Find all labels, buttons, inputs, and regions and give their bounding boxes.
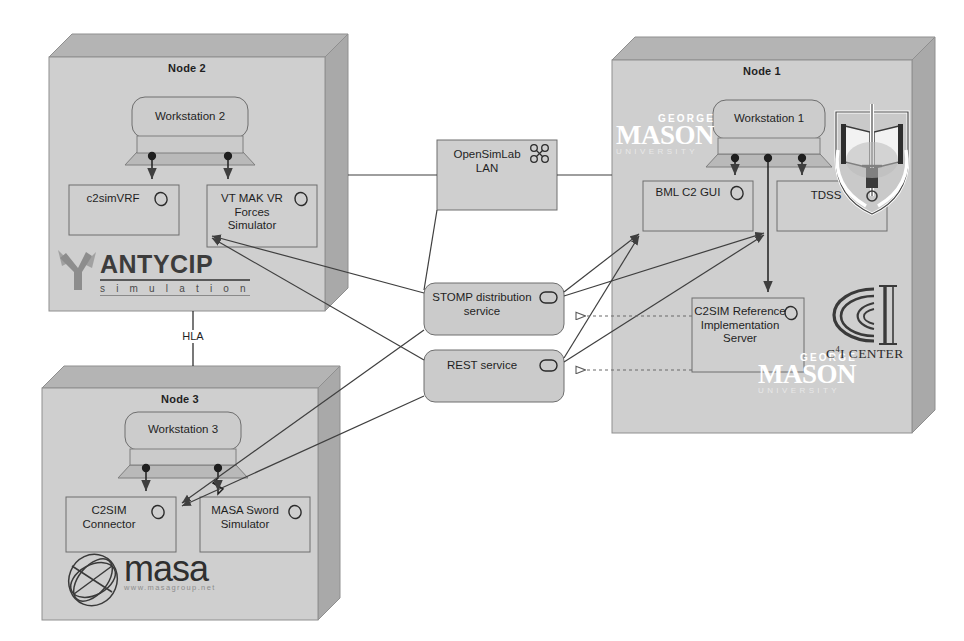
gmu-line2-bottom: MASON xyxy=(758,363,857,386)
service-label-rest: REST service xyxy=(424,359,540,373)
c4i-rest: I CENTER xyxy=(840,346,904,361)
node-title-node1: Node 1 xyxy=(612,65,912,78)
antycip-mark-icon xyxy=(58,250,96,290)
workstation-label-node1: Workstation 1 xyxy=(713,112,825,126)
component-label-bml-c2-gui: BML C2 GUI xyxy=(645,186,731,200)
c4i-center-logo: C4I CENTER xyxy=(826,344,904,362)
masa-wordmark: masa xyxy=(124,552,216,585)
workstation-label-node3: Workstation 3 xyxy=(125,423,241,437)
component-gear-icon-masa-sword xyxy=(287,504,302,520)
node-title-node2: Node 2 xyxy=(49,62,325,75)
component-label-tdss: TDSS xyxy=(790,189,862,203)
connection-lines-layer xyxy=(0,0,964,641)
antycip-wordmark: ANTYCIP xyxy=(100,252,250,281)
c4i-center-arcs-icon xyxy=(834,285,897,345)
architecture-diagram: Node 2 Node 3 Node 1 Workstation 2 Works… xyxy=(0,0,964,641)
lan-label-line2: LAN xyxy=(441,162,533,176)
gmu-logo-top: GEORGE MASON UNIVERSITY xyxy=(616,113,715,156)
link-rest-bml-c2-gui xyxy=(564,236,639,358)
component-gear-icon-bml-c2-gui xyxy=(729,185,744,201)
lan-label-line1: OpenSimLab xyxy=(441,148,533,162)
link-stomp-bml-c2-gui xyxy=(564,234,639,292)
interface-oval-icon-stomp xyxy=(540,292,557,303)
masa-logo: masa www.masagroup.net xyxy=(124,552,216,592)
component-label-c2sim-connector: C2SIM Connector xyxy=(66,504,152,531)
component-gear-icon-vtmak xyxy=(293,191,308,207)
link-label-hla: HLA xyxy=(166,330,220,343)
link-rest-c2sim-connector xyxy=(182,396,424,506)
link-stomp-node1-junction xyxy=(564,233,764,296)
antycip-tagline: s i m u l a t i o n xyxy=(100,283,250,296)
gmu-line2-top: MASON xyxy=(616,124,715,147)
workstation-label-node2: Workstation 2 xyxy=(132,110,248,124)
component-label-vtmak: VT MAK VR Forces Simulator xyxy=(209,192,295,233)
masa-url: www.masagroup.net xyxy=(124,583,216,592)
component-label-c2sim-ref-server: C2SIM Reference Implementation Server xyxy=(694,305,786,346)
link-lan-services xyxy=(424,210,437,290)
service-label-stomp-line1: STOMP distribution xyxy=(424,291,540,305)
antycip-logo: ANTYCIP s i m u l a t i o n xyxy=(100,252,250,296)
c4i-c: C xyxy=(826,346,835,361)
component-label-c2simvrf: c2simVRF xyxy=(69,192,157,206)
service-label-stomp-line2: service xyxy=(424,305,540,319)
node-title-node3: Node 3 xyxy=(42,393,318,406)
component-gear-icon-c2sim-connector xyxy=(150,504,165,520)
network-nodes-icon xyxy=(531,145,549,163)
masa-mark-icon xyxy=(61,547,125,613)
c4i-center-wordmark: C4I CENTER xyxy=(826,344,904,362)
component-label-masa-sword: MASA Sword Simulator xyxy=(202,504,288,531)
interface-oval-icon-rest xyxy=(540,360,557,371)
service-icons xyxy=(540,292,557,371)
link-stomp-c2sim-connector xyxy=(182,330,424,503)
